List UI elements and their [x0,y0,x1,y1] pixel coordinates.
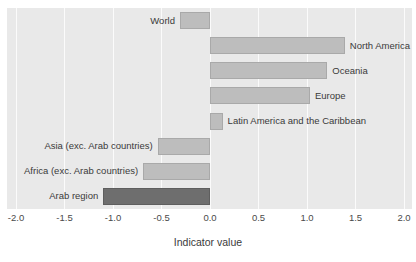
x-tick-1.0: 1.0 [300,212,313,223]
bar-oceania [210,62,327,79]
bar-north-america [210,37,345,54]
x-tick-0.5: 0.5 [252,212,265,223]
category-label-oceania: Oceania [332,66,367,76]
bar-world [180,12,210,29]
bar-europe [210,87,310,104]
category-label-asia-exc-arab-countries: Asia (exc. Arab countries) [44,141,152,151]
bar-asia-exc-arab-countries [158,138,210,155]
category-label-world: World [150,16,175,26]
bar-latin-america-and-the-caribbean [210,113,223,130]
bar-africa-exc-arab-countries [143,163,210,180]
gridline--1.5 [64,8,65,209]
x-tick--2.0: -2.0 [8,212,24,223]
x-tick-2.0: 2.0 [397,212,410,223]
x-axis-tick-labels: -2.0-1.5-1.0-0.50.00.51.01.52.0 [0,212,416,226]
category-label-latin-america-and-the-caribbean: Latin America and the Caribbean [228,116,366,126]
x-tick--0.5: -0.5 [153,212,169,223]
gridline--2.0 [16,8,17,209]
category-label-europe: Europe [315,91,346,101]
x-tick--1.0: -1.0 [105,212,121,223]
category-label-africa-exc-arab-countries: Africa (exc. Arab countries) [24,166,138,176]
gridline-2.0 [404,8,405,209]
gridline-1.5 [355,8,356,209]
bar-arab-region [103,188,210,205]
x-tick-0.0: 0.0 [203,212,216,223]
category-label-north-america: North America [350,41,410,51]
x-axis-title: Indicator value [0,236,416,248]
x-tick--1.5: -1.5 [56,212,72,223]
gridline--1.0 [113,8,114,209]
category-label-arab-region: Arab region [49,191,98,201]
x-tick-1.5: 1.5 [349,212,362,223]
chart-plot-area: WorldNorth AmericaOceaniaEuropeLatin Ame… [7,8,412,209]
